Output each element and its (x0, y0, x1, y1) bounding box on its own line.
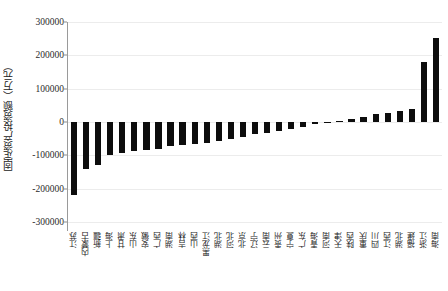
bar (155, 122, 161, 149)
x-axis-category-label-text: 安徽 (142, 232, 150, 248)
x-axis-category-label: 福建 (406, 232, 418, 252)
x-axis-category-label: 北京 (237, 232, 249, 252)
x-axis-category-label-text: 湖南 (166, 232, 174, 248)
x-axis-category-label-text: 黑龙江 (203, 232, 211, 256)
x-axis-category-label: 湖北 (213, 232, 225, 252)
bar (276, 122, 282, 131)
bar (204, 122, 210, 143)
bar (143, 122, 149, 150)
x-axis-category-label: 陕西 (346, 232, 358, 252)
x-axis-category-label: 山西 (189, 232, 201, 252)
x-axis-category-label-text: 广东 (299, 232, 307, 248)
x-axis-category-label-text: 湖北 (396, 232, 404, 248)
x-axis-category-label-text: 云南 (263, 232, 271, 248)
x-axis-category-label-text: 新疆 (94, 232, 102, 248)
x-axis-category-label: 四川 (370, 232, 382, 252)
x-axis-category-label-text: 江苏 (70, 232, 78, 248)
bar (192, 122, 198, 144)
x-axis-category-label-text: 浙江 (420, 232, 428, 248)
x-axis-category-label: 宁夏 (285, 232, 297, 252)
x-axis-category-label: 辽宁 (249, 232, 261, 252)
x-axis-category-label: 上海 (104, 232, 116, 252)
bar (83, 122, 89, 169)
x-axis-category-label: 甘肃 (116, 232, 128, 252)
bar (360, 117, 366, 122)
bar (336, 121, 342, 122)
x-axis-category-label: 湖北 (394, 232, 406, 252)
x-axis-category-label-text: 天津 (335, 232, 343, 248)
bar (179, 122, 185, 145)
bar (421, 62, 427, 122)
bar (95, 122, 101, 165)
x-axis-category-label: 云南 (261, 232, 273, 252)
gridline (68, 222, 442, 223)
bar (216, 122, 222, 141)
bar (131, 122, 137, 151)
x-axis-category-label: 江苏 (68, 232, 80, 252)
x-axis-category-label-text: 江西 (384, 232, 392, 248)
x-axis-category-label: 山东 (128, 232, 140, 252)
x-axis-category-label: 黑龙江 (201, 232, 213, 260)
x-axis-category-label-text: 河北 (227, 232, 235, 248)
bar (300, 122, 306, 127)
x-axis-category-label-text: 上海 (106, 232, 114, 248)
x-axis-category-label: 吉林 (177, 232, 189, 252)
bar (167, 122, 173, 146)
x-axis-category-label-text: 重庆 (360, 232, 368, 248)
x-axis-category-label-text: 陕西 (347, 232, 355, 248)
bar (385, 113, 391, 122)
x-axis-category-label: 湖南 (165, 232, 177, 252)
x-axis-category-label: 河南 (321, 232, 333, 252)
x-axis-category-label-text: 海南 (432, 232, 440, 248)
bar (71, 122, 77, 195)
bar (240, 122, 246, 137)
x-axis-category-label-text: 山西 (191, 232, 199, 248)
bar (264, 122, 270, 133)
x-axis-category-label-text: 河南 (323, 232, 331, 248)
x-axis-category-label: 江西 (382, 232, 394, 252)
bar (228, 122, 234, 139)
x-axis-category-label-text: 吉林 (179, 232, 187, 248)
plot-area (68, 22, 442, 222)
x-axis-category-label-text: 广西 (154, 232, 162, 248)
bar (288, 122, 294, 129)
bar-chart: 固定资产投资额（万元） 3000002000001000000-100000-2… (0, 0, 448, 291)
bar (433, 38, 439, 122)
x-axis-category-label: 天津 (333, 232, 345, 252)
x-axis-category-label-text: 湖北 (215, 232, 223, 248)
x-axis-category-label-text: 辽宁 (251, 232, 259, 248)
x-axis-category-labels: 江苏内蒙古新疆上海甘肃山东安徽广西湖南吉林山西黑龙江湖北河北北京辽宁云南贵州宁夏… (68, 232, 442, 291)
x-axis-category-label: 青海 (309, 232, 321, 252)
x-axis-category-label-text: 内蒙古 (82, 232, 90, 256)
x-axis-category-label: 重庆 (358, 232, 370, 252)
bar (252, 122, 258, 134)
bar (373, 114, 379, 122)
x-axis-category-label-text: 贵州 (275, 232, 283, 248)
x-axis-category-label-text: 宁夏 (287, 232, 295, 248)
y-axis-tick-marks (0, 22, 68, 222)
bars-layer (68, 22, 442, 222)
bar (312, 122, 318, 124)
bar (324, 122, 330, 123)
x-axis-category-label: 贵州 (273, 232, 285, 252)
x-axis-category-label: 海南 (430, 232, 442, 252)
bar (107, 122, 113, 155)
x-axis-category-label-text: 青海 (311, 232, 319, 248)
x-axis-category-label: 浙江 (418, 232, 430, 252)
x-axis-category-label: 内蒙古 (80, 232, 92, 260)
x-axis-category-label: 广西 (152, 232, 164, 252)
x-axis-category-label-text: 山东 (130, 232, 138, 248)
bar (409, 109, 415, 122)
bar (119, 122, 125, 153)
bar (397, 111, 403, 122)
x-axis-category-label: 广东 (297, 232, 309, 252)
x-axis-category-label: 河北 (225, 232, 237, 252)
bar (348, 119, 354, 122)
x-axis-category-label-text: 四川 (372, 232, 380, 248)
x-axis-category-label-text: 北京 (239, 232, 247, 248)
x-axis-category-label-text: 福建 (408, 232, 416, 248)
x-axis-category-label: 安徽 (140, 232, 152, 252)
x-axis-category-label-text: 甘肃 (118, 232, 126, 248)
x-axis-category-label: 新疆 (92, 232, 104, 252)
